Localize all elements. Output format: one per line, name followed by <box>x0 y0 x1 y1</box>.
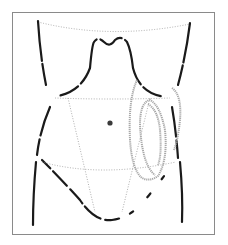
navel <box>107 120 112 125</box>
abdomen-diagram <box>0 0 228 245</box>
inguinal-lines <box>68 98 150 212</box>
chest-upper-line <box>38 22 190 32</box>
transverse-line-lower <box>42 162 176 170</box>
transverse-line-upper <box>55 98 170 99</box>
